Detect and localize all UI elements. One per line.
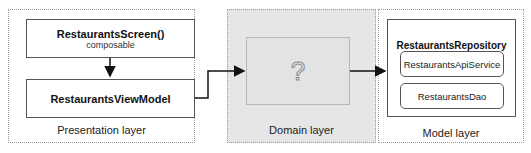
connector-arrows: [0, 0, 531, 153]
arrow-viewmodel-to-domain: [195, 71, 244, 98]
